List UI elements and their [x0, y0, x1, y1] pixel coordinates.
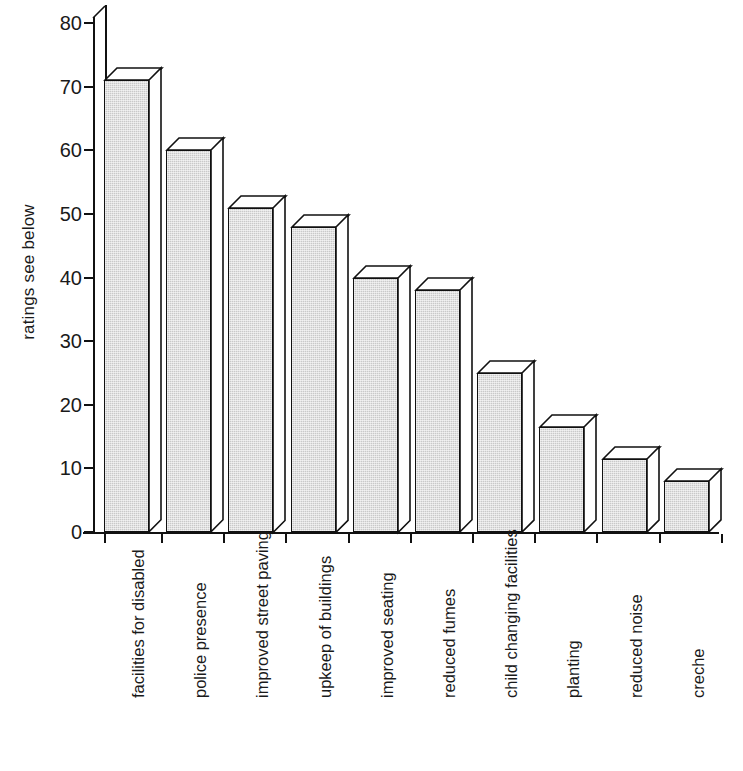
bar-column[interactable]: [291, 213, 348, 532]
bar-front-face: [166, 150, 211, 532]
bar-front-face: [353, 278, 398, 533]
bar-side-face: [210, 136, 226, 534]
x-tick-mark: [596, 534, 598, 543]
y-tick-label: 60: [36, 140, 82, 160]
x-axis-category-label: reduced noise: [628, 594, 645, 698]
x-axis-category-label: planting: [565, 640, 582, 698]
x-tick-mark: [223, 534, 225, 543]
y-tick-mark: [84, 213, 93, 215]
y-tick-label: 40: [36, 268, 82, 288]
y-tick-mark: [84, 277, 93, 279]
bar-column[interactable]: [104, 66, 161, 532]
x-tick-mark: [285, 534, 287, 543]
x-tick-mark: [472, 534, 474, 543]
x-tick-mark: [534, 534, 536, 543]
y-tick-mark: [84, 404, 93, 406]
y-tick-mark: [84, 149, 93, 151]
bar-column[interactable]: [477, 359, 534, 532]
bar-front-face: [415, 290, 460, 532]
y-tick-label: 0: [36, 522, 82, 542]
y-tick-mark: [84, 531, 93, 533]
y-tick-label: 50: [36, 204, 82, 224]
x-tick-mark: [410, 534, 412, 543]
x-axis-category-label: creche: [690, 648, 707, 698]
y-tick-label: 10: [36, 458, 82, 478]
y-tick-mark: [84, 340, 93, 342]
bar-chart: ratings see below 01020304050607080facil…: [0, 0, 743, 771]
y-tick-mark: [84, 86, 93, 88]
x-tick-mark: [659, 534, 661, 543]
bar-front-face: [602, 459, 647, 532]
x-axis-category-label: police presence: [192, 582, 209, 698]
bar-front-face: [539, 427, 584, 532]
bar-front-face: [477, 373, 522, 532]
bar-column[interactable]: [664, 467, 721, 532]
bar-column[interactable]: [415, 276, 472, 532]
bar-column[interactable]: [602, 445, 659, 532]
x-axis-category-label: child changing facilities: [503, 529, 520, 698]
x-tick-mark-origin: [104, 534, 106, 543]
bar-side-face: [583, 413, 599, 534]
x-tick-mark: [161, 534, 163, 543]
bar-side-face: [397, 264, 413, 535]
x-tick-mark: [721, 534, 723, 543]
bar-column[interactable]: [539, 413, 596, 532]
x-axis-category-label: facilities for disabled: [130, 549, 147, 698]
x-axis-category-label: reduced fumes: [441, 589, 458, 698]
bar-front-face: [104, 80, 149, 532]
bar-column[interactable]: [166, 136, 223, 532]
bar-side-face: [459, 276, 475, 534]
y-tick-mark: [84, 467, 93, 469]
y-tick-mark: [84, 22, 93, 24]
y-tick-label: 20: [36, 395, 82, 415]
bar-side-face: [335, 213, 351, 534]
x-tick-mark: [348, 534, 350, 543]
bar-side-face: [708, 467, 724, 534]
bar-front-face: [291, 227, 336, 532]
y-tick-label: 30: [36, 331, 82, 351]
y-axis-depth-diagonal: [91, 4, 107, 20]
bar-column[interactable]: [228, 194, 285, 532]
x-axis-category-label: improved seating: [379, 572, 396, 698]
bar-side-face: [521, 359, 537, 534]
bar-side-face: [272, 194, 288, 534]
y-tick-label: 70: [36, 77, 82, 97]
bar-side-face: [148, 66, 164, 534]
bar-front-face: [228, 208, 273, 532]
bar-front-face: [664, 481, 709, 532]
x-axis-category-label: improved street paving: [254, 531, 271, 698]
bar-side-face: [646, 445, 662, 534]
x-axis-category-label: upkeep of buildings: [317, 556, 334, 698]
y-tick-label: 80: [36, 13, 82, 33]
y-axis-line: [93, 17, 95, 533]
bar-column[interactable]: [353, 264, 410, 533]
y-tick-labels: 01020304050607080: [36, 0, 82, 771]
